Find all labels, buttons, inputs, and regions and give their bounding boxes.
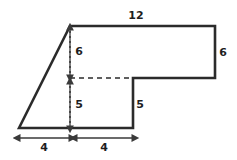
dimension-label-bottom-right-width: 4 <box>100 141 108 154</box>
canvas-background <box>0 0 237 160</box>
dimension-label-top-width: 12 <box>128 9 143 22</box>
geometry-figure: 12 6 6 5 5 4 4 <box>0 0 237 160</box>
figure-canvas: 12 6 6 5 5 4 4 <box>0 0 237 160</box>
dimension-label-notch-height: 5 <box>136 98 144 111</box>
dimension-label-bottom-left-width: 4 <box>40 141 48 154</box>
dimension-label-right-height: 6 <box>219 46 227 59</box>
dimension-label-upper-interior-height: 6 <box>75 45 83 58</box>
dimension-label-lower-interior-height: 5 <box>75 98 83 111</box>
